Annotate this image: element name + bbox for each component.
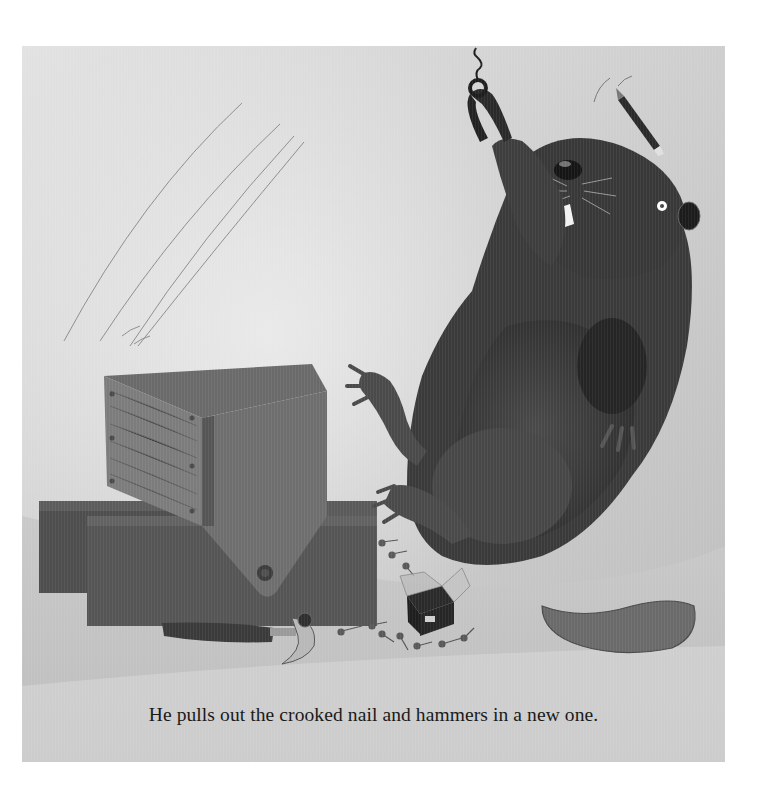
illustration-artwork bbox=[22, 46, 725, 762]
illustration: He pulls out the crooked nail and hammer… bbox=[22, 46, 725, 762]
book-page: He pulls out the crooked nail and hammer… bbox=[0, 0, 765, 794]
page-caption: He pulls out the crooked nail and hammer… bbox=[22, 704, 725, 726]
